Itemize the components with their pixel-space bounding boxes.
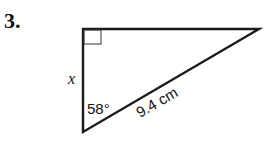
right-angle-marker [84, 30, 101, 44]
angle-label: 58° [87, 100, 110, 117]
side-x-label: x [67, 70, 75, 87]
right-triangle-diagram: x 58° 9.4 cm [0, 0, 267, 148]
